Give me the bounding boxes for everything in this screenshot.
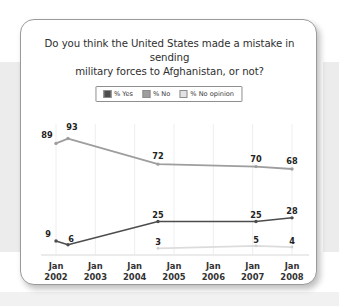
data-label-1-0: 9 [45, 229, 51, 239]
data-label-0-2: 72 [152, 151, 163, 161]
series-point-1-0 [54, 239, 57, 242]
x-tick-label-4: Jan2006 [193, 261, 233, 282]
x-tick-year: 2007 [233, 272, 273, 283]
data-label-2-2: 3 [155, 237, 161, 247]
background-wash-left [0, 62, 22, 252]
chart-plot-area: 899372706896252528354Jan2002Jan2003Jan20… [21, 20, 317, 285]
series-point-2-1 [255, 245, 258, 248]
data-label-0-0: 89 [41, 130, 52, 140]
data-label-1-3: 25 [250, 210, 261, 220]
x-tick-label-6: Jan2008 [272, 261, 312, 282]
data-label-1-1: 6 [68, 234, 74, 244]
chart-svg [21, 20, 317, 285]
screenshot-root: Do you think the United States made a mi… [0, 0, 339, 306]
data-label-1-2: 25 [152, 210, 163, 220]
x-tick-month: Jan [233, 261, 273, 272]
x-tick-month: Jan [115, 261, 155, 272]
data-label-0-1: 93 [66, 122, 77, 132]
x-tick-label-1: Jan2003 [75, 261, 115, 282]
series-point-1-3 [254, 220, 257, 223]
x-tick-label-5: Jan2007 [233, 261, 273, 282]
data-label-1-4: 28 [286, 206, 297, 216]
series-point-0-1 [66, 137, 69, 140]
series-point-1-4 [290, 216, 293, 219]
series-point-0-4 [290, 167, 293, 170]
background-wash-bottom [0, 292, 339, 306]
series-line-2 [158, 246, 292, 248]
data-label-2-4: 4 [289, 236, 295, 246]
series-point-0-2 [156, 162, 159, 165]
x-tick-month: Jan [154, 261, 194, 272]
x-tick-month: Jan [36, 261, 76, 272]
x-tick-month: Jan [75, 261, 115, 272]
x-tick-month: Jan [193, 261, 233, 272]
x-tick-year: 2002 [36, 272, 76, 283]
x-tick-year: 2004 [115, 272, 155, 283]
series-point-0-0 [54, 142, 57, 145]
x-tick-year: 2008 [272, 272, 312, 283]
data-label-0-3: 70 [250, 154, 261, 164]
x-tick-year: 2005 [154, 272, 194, 283]
x-tick-month: Jan [272, 261, 312, 272]
x-tick-year: 2003 [75, 272, 115, 283]
data-label-2-3: 5 [253, 235, 259, 245]
series-point-1-2 [156, 220, 159, 223]
x-tick-label-2: Jan2004 [115, 261, 155, 282]
x-tick-label-0: Jan2002 [36, 261, 76, 282]
data-label-0-4: 68 [286, 156, 297, 166]
series-point-2-0 [157, 247, 160, 250]
series-point-0-3 [254, 165, 257, 168]
series-point-2-2 [291, 246, 294, 249]
x-tick-year: 2006 [193, 272, 233, 283]
x-tick-label-3: Jan2005 [154, 261, 194, 282]
background-wash-right [323, 62, 339, 252]
chart-card: Do you think the United States made a mi… [20, 19, 317, 285]
